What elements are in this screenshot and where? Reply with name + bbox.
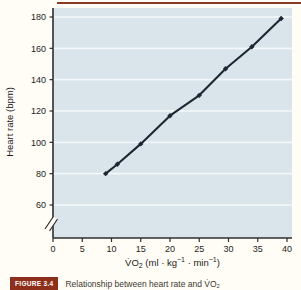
x-axis-title-units2: · min [185, 257, 209, 268]
x-axis-title-base: V̇O [125, 257, 139, 268]
x-tick-label: 35 [253, 244, 263, 254]
y-tick-label: 180 [31, 12, 46, 22]
x-axis-title-close: ) [217, 257, 220, 268]
figure-caption-text: Relationship between heart rate and V̇O₂ [65, 277, 220, 289]
x-tick-label: 20 [165, 244, 175, 254]
x-axis-title-exponent2: −1 [209, 256, 217, 263]
x-axis-title-units: (ml · kg [143, 257, 177, 268]
y-tick-label: 120 [31, 106, 46, 116]
x-axis-title-exponent: −1 [177, 256, 185, 263]
x-tick-label: 25 [194, 244, 204, 254]
x-tick-label: 10 [106, 244, 116, 254]
y-tick-label: 100 [31, 138, 46, 148]
y-tick-label: 140 [31, 75, 46, 85]
y-tick-label: 80 [36, 169, 46, 179]
y-tick-label: 160 [31, 44, 46, 54]
x-tick-label: 5 [80, 244, 85, 254]
x-tick-label: 40 [282, 244, 292, 254]
x-tick-label: 0 [50, 244, 55, 254]
figure-badge: FIGURE 3.4 [10, 277, 58, 290]
x-tick-label: 15 [136, 244, 146, 254]
y-tick-label: 60 [36, 200, 46, 210]
figure-caption: FIGURE 3.4 Relationship between heart ra… [10, 277, 301, 290]
x-axis-title: V̇O2 (ml · kg−1 · min−1) [53, 256, 292, 269]
x-tick-label: 30 [223, 244, 233, 254]
